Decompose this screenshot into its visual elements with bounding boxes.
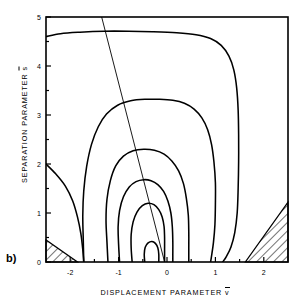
x-tick-label: -2 xyxy=(67,269,73,276)
hatch-bottom-left xyxy=(46,240,77,262)
contour-lines xyxy=(46,31,239,262)
y-tick-label: 1 xyxy=(37,210,41,217)
figure-panel-b: b) SEPARATION PARAMETER s DISPLACEMENT P… xyxy=(0,0,301,305)
hatch-bottom-right xyxy=(245,202,288,262)
y-tick-label: 3 xyxy=(37,112,41,119)
contour-7-innermost xyxy=(144,241,159,262)
x-tick-label: 0 xyxy=(165,269,169,276)
tick-labels: -2-1012012345 xyxy=(37,14,266,276)
x-tick-label: -1 xyxy=(115,269,121,276)
y-tick-label: 2 xyxy=(37,161,41,168)
x-tick-label: 2 xyxy=(262,269,266,276)
contour-plot-canvas: -2-1012012345 xyxy=(0,0,301,305)
contour-6 xyxy=(131,203,165,262)
y-tick-label: 5 xyxy=(37,14,41,21)
x-tick-label: 1 xyxy=(213,269,217,276)
contour-1-outermost xyxy=(46,31,239,262)
y-tick-label: 0 xyxy=(37,259,41,266)
y-tick-label: 4 xyxy=(37,63,41,70)
